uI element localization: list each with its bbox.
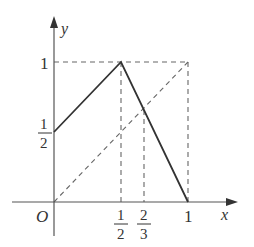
x-tick-half-numerator: 1 (117, 207, 125, 223)
y-tick-half-denominator: 2 (40, 135, 48, 151)
y-tick-half-numerator: 1 (40, 116, 48, 132)
x-tick-half-denominator: 2 (117, 226, 125, 242)
x-tick-two-thirds-denominator: 3 (140, 226, 148, 242)
origin-label: O (36, 207, 48, 226)
x-tick-half: 1 2 (114, 207, 128, 242)
x-axis-label: x (220, 206, 228, 223)
x-tick-two-thirds-numerator: 2 (140, 207, 148, 223)
x-axis-arrow-icon (226, 198, 238, 206)
dashed-guides (54, 62, 188, 202)
y-tick-half: 1 2 (38, 116, 52, 151)
y-axis-arrow-icon (50, 16, 58, 28)
x-tick-1: 1 (184, 207, 193, 226)
x-tick-two-thirds: 2 3 (137, 207, 151, 242)
y-tick-1: 1 (40, 54, 49, 73)
function-diagram: y x O 1 1 2 1 2 2 3 1 (0, 0, 254, 247)
y-axis-label: y (59, 20, 69, 38)
